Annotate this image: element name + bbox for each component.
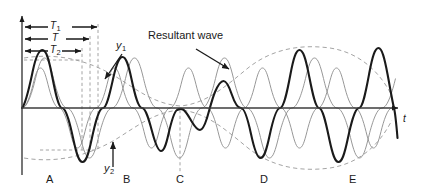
- period-measure-arrows: [25, 27, 97, 51]
- resultant-wave-curve: [22, 48, 398, 162]
- wave-label-y2: y2: [104, 163, 114, 175]
- beat-node-label-C: C: [176, 174, 184, 185]
- beat-node-label-D: D: [260, 174, 268, 185]
- x-axis-label: t: [403, 114, 406, 124]
- period-label-T1: T1: [50, 21, 61, 32]
- beat-node-label-E: E: [349, 174, 356, 185]
- period-label-T: T: [52, 33, 59, 44]
- construction-guides: [24, 24, 180, 172]
- resultant-wave-label: Resultant wave: [148, 30, 223, 41]
- wave-label-y1: y1: [116, 40, 126, 52]
- beat-node-label-B: B: [123, 174, 130, 185]
- period-label-T2: T2: [50, 45, 61, 56]
- beats-waveform-figure: T1 T T2 Resultant wave y1 y2 t A B C D E: [0, 0, 433, 195]
- resultant-wave-arrow: [196, 49, 229, 69]
- beat-node-label-A: A: [46, 174, 53, 185]
